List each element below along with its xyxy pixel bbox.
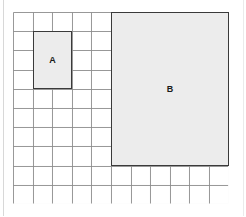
diagram-canvas: A B	[0, 0, 246, 217]
grid-area: A B	[13, 12, 229, 204]
region-b-label: B	[167, 85, 174, 94]
region-a-label: A	[49, 56, 56, 65]
